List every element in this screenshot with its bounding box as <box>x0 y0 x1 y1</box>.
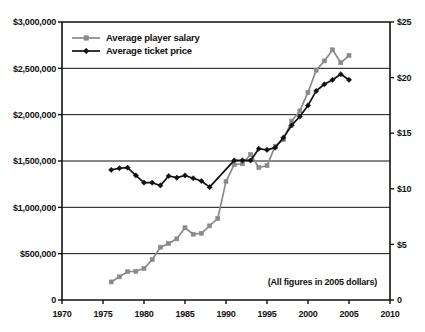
left-axis-tick-label: $2,500,000 <box>13 64 56 74</box>
x-axis-tick-label: 1995 <box>257 309 276 319</box>
data-point-square <box>306 90 310 94</box>
x-axis-tick-label: 2005 <box>339 309 358 319</box>
data-point-square <box>216 216 220 220</box>
x-axis-tick-label: 1970 <box>52 309 71 319</box>
left-axis-tick-label: $2,000,000 <box>13 110 56 120</box>
data-point-square <box>142 266 146 270</box>
data-point-square <box>298 109 302 113</box>
right-axis-tick-label: $25 <box>397 17 412 27</box>
data-point-square <box>208 224 212 228</box>
data-point-square <box>224 179 228 183</box>
data-point-square <box>249 153 253 157</box>
left-axis-tick-label: $500,000 <box>20 249 56 259</box>
right-axis-tick-label: $15 <box>397 128 412 138</box>
x-axis-tick-label: 2010 <box>380 309 399 319</box>
data-point-square <box>109 280 113 284</box>
x-axis-tick-label: 1985 <box>175 309 194 319</box>
right-axis-tick-label: $10 <box>397 184 412 194</box>
data-point-square <box>126 270 130 274</box>
left-axis-tick-label: $1,500,000 <box>13 156 56 166</box>
chart-container: $3,000,000$2,500,000$2,000,000$1,500,000… <box>0 0 425 332</box>
data-point-square <box>331 48 335 52</box>
data-point-square <box>134 269 138 273</box>
data-point-square <box>199 231 203 235</box>
x-axis-tick-label: 1990 <box>216 309 235 319</box>
data-point-square <box>175 237 179 241</box>
left-axis-tick-label: $1,000,000 <box>13 203 56 213</box>
chart-annotation: (All figures in 2005 dollars) <box>268 277 377 287</box>
data-point-square <box>257 165 261 169</box>
data-point-square <box>314 68 318 72</box>
data-point-square <box>265 164 269 168</box>
data-point-square <box>167 241 171 245</box>
data-point-square <box>183 226 187 230</box>
left-axis-tick-label: $3,000,000 <box>13 17 56 27</box>
legend-marker-square <box>84 36 88 40</box>
data-point-square <box>339 61 343 65</box>
x-axis-tick-label: 2000 <box>298 309 317 319</box>
x-axis-tick-label: 1975 <box>93 309 112 319</box>
right-axis-tick-label: $5 <box>397 240 407 250</box>
data-point-square <box>191 232 195 236</box>
legend-item-label: Average ticket price <box>106 45 192 56</box>
legend-item-label: Average player salary <box>106 32 201 43</box>
data-point-square <box>322 59 326 63</box>
right-axis-tick-label: 0 <box>397 295 402 305</box>
left-axis-tick-label: 0 <box>51 295 56 305</box>
baseball-salary-ticket-line-chart: $3,000,000$2,500,000$2,000,000$1,500,000… <box>0 0 425 332</box>
data-point-square <box>150 258 154 262</box>
x-axis-tick-label: 1980 <box>134 309 153 319</box>
data-point-square <box>347 53 351 57</box>
bottom-axis-tick-labels: 197019751980198519901995200020052010 <box>52 309 399 319</box>
data-point-square <box>158 245 162 249</box>
right-axis-tick-label: $20 <box>397 73 412 83</box>
data-point-square <box>117 275 121 279</box>
